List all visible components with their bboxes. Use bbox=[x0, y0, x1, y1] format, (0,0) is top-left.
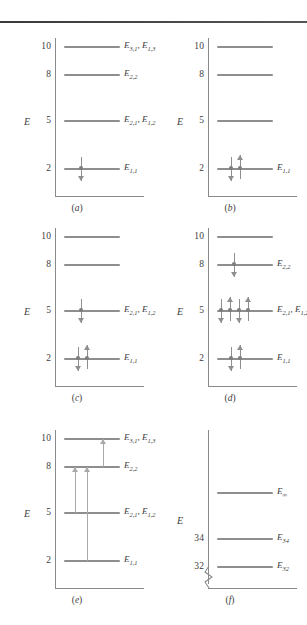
caption-letter: c bbox=[75, 393, 79, 403]
level-label: E2,2 bbox=[124, 461, 138, 472]
transition-arrow bbox=[72, 467, 79, 513]
level-label: E2,1, E1,2 bbox=[124, 507, 156, 518]
axis-tick-10: 10 bbox=[29, 232, 51, 242]
y-axis bbox=[208, 38, 209, 196]
axis-tick-5: 5 bbox=[29, 116, 51, 126]
level-label: E2,1, E1,2 bbox=[124, 115, 156, 126]
axis-tick-5: 5 bbox=[29, 306, 51, 316]
y-axis bbox=[208, 430, 209, 584]
axis-tick-2: 2 bbox=[182, 354, 204, 364]
electron-arrow-down bbox=[77, 157, 86, 181]
caption-letter: b bbox=[228, 203, 233, 213]
electron-arrow-up bbox=[244, 297, 253, 321]
energy-level-line bbox=[217, 358, 273, 360]
axis-tick-5: 5 bbox=[182, 116, 204, 126]
electron-arrow-up bbox=[226, 297, 235, 321]
energy-level-line bbox=[217, 566, 273, 568]
level-label: E3,1, E1,3 bbox=[124, 41, 156, 52]
y-axis bbox=[55, 38, 56, 196]
level-label: E∞ bbox=[277, 487, 287, 498]
energy-level-line bbox=[64, 236, 120, 238]
panel-e: E10E3,1, E1,38E2,25E2,1, E1,22E1,1(e) bbox=[2, 420, 152, 605]
axis-tick-8: 8 bbox=[182, 260, 204, 270]
energy-level-line bbox=[217, 492, 273, 494]
panel-caption-d: (d) bbox=[155, 394, 305, 404]
caption-letter: f bbox=[229, 595, 232, 605]
axis-tick-10: 10 bbox=[182, 42, 204, 52]
panel-c: E1085E2,1, E1,22E1,1(c) bbox=[2, 218, 152, 403]
axis-tick-10: 10 bbox=[182, 232, 204, 242]
axis-tick-10: 10 bbox=[29, 42, 51, 52]
panel-a: E10E3,1, E1,38E2,25E2,1, E1,22E1,1(a) bbox=[2, 28, 152, 213]
energy-level-line bbox=[64, 358, 120, 360]
axis-tick-2: 2 bbox=[29, 164, 51, 174]
electron-arrow-down bbox=[227, 347, 236, 371]
energy-level-line bbox=[64, 264, 120, 266]
transition-arrow bbox=[84, 467, 91, 561]
axis-tick-34: 34 bbox=[182, 534, 204, 544]
axis-tick-10: 10 bbox=[29, 434, 51, 444]
level-label: E1,1 bbox=[124, 555, 138, 566]
energy-level-line bbox=[64, 438, 120, 440]
x-axis bbox=[55, 386, 144, 387]
level-label: E1,1 bbox=[277, 353, 291, 364]
x-axis bbox=[208, 196, 297, 197]
panel-caption-f: (f) bbox=[155, 596, 305, 606]
y-axis bbox=[55, 228, 56, 386]
energy-level-line bbox=[217, 264, 273, 266]
axis-tick-2: 2 bbox=[182, 164, 204, 174]
panel-caption-b: (b) bbox=[155, 204, 305, 214]
transition-arrow bbox=[100, 439, 107, 467]
energy-level-line bbox=[217, 46, 273, 48]
electron-arrow-up bbox=[83, 345, 92, 369]
electron-arrow-down bbox=[217, 299, 226, 323]
energy-level-line bbox=[64, 74, 120, 76]
energy-level-line bbox=[217, 120, 273, 122]
electron-arrow-down bbox=[235, 299, 244, 323]
level-label: E3,1, E1,3 bbox=[124, 433, 156, 444]
panel-caption-c: (c) bbox=[2, 394, 152, 404]
level-label: E34 bbox=[277, 533, 289, 544]
level-label: E2,1, E1,2 bbox=[124, 305, 156, 316]
axis-break-icon bbox=[203, 566, 215, 594]
level-label: E1,1 bbox=[277, 163, 291, 174]
level-label: E2,2 bbox=[277, 259, 291, 270]
x-axis bbox=[208, 588, 297, 589]
level-label: E32 bbox=[277, 561, 289, 572]
axis-tick-8: 8 bbox=[29, 70, 51, 80]
caption-letter: d bbox=[228, 393, 233, 403]
y-axis-label: E bbox=[177, 516, 183, 526]
axis-tick-8: 8 bbox=[29, 260, 51, 270]
electron-arrow-up bbox=[236, 345, 245, 369]
level-label: E2,1, E1,2 bbox=[277, 305, 307, 316]
energy-level-line bbox=[217, 168, 273, 170]
axis-tick-32: 32 bbox=[182, 562, 204, 572]
x-axis bbox=[208, 386, 297, 387]
level-label: E1,1 bbox=[124, 163, 138, 174]
energy-level-line bbox=[64, 560, 120, 562]
axis-tick-5: 5 bbox=[182, 306, 204, 316]
caption-letter: e bbox=[75, 595, 79, 605]
level-label: E1,1 bbox=[124, 353, 138, 364]
x-axis bbox=[55, 588, 144, 589]
electron-arrow-down bbox=[77, 299, 86, 323]
electron-arrow-down bbox=[227, 157, 236, 181]
y-axis bbox=[55, 430, 56, 588]
panel-b: E10852E1,1(b) bbox=[155, 28, 305, 213]
energy-level-line bbox=[217, 538, 273, 540]
axis-tick-8: 8 bbox=[182, 70, 204, 80]
axis-tick-2: 2 bbox=[29, 354, 51, 364]
caption-letter: a bbox=[75, 203, 80, 213]
panel-caption-e: (e) bbox=[2, 596, 152, 606]
level-label: E2,2 bbox=[124, 69, 138, 80]
x-axis bbox=[55, 196, 144, 197]
axis-tick-8: 8 bbox=[29, 462, 51, 472]
electron-arrow-up bbox=[236, 155, 245, 179]
energy-level-line bbox=[217, 236, 273, 238]
energy-level-line bbox=[64, 310, 120, 312]
panel-d: E108E2,25E2,1, E1,22E1,1(d) bbox=[155, 218, 305, 403]
electron-arrow-down bbox=[230, 253, 239, 277]
energy-level-line bbox=[64, 46, 120, 48]
energy-level-line bbox=[217, 74, 273, 76]
y-axis bbox=[208, 228, 209, 386]
